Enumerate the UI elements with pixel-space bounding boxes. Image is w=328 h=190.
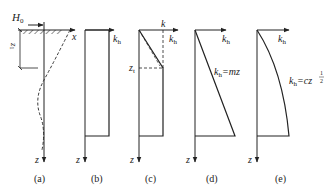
x-axis-label: x (71, 31, 77, 42)
formula-exponent-num: 1 (320, 70, 323, 76)
formula-label: kh=cz (289, 75, 312, 88)
linear-then-constant-profile (139, 30, 163, 136)
k-axis-label: kh (278, 33, 286, 46)
depth-label: zt (128, 62, 135, 75)
load-label: H0 (11, 11, 24, 25)
ground-hatching (20, 30, 62, 34)
formula-label: kh=mz (214, 66, 240, 79)
panel-d: kh z kh=mz (d) (185, 30, 240, 185)
z-axis-label: z (185, 154, 190, 165)
k-axis-label: kh (113, 33, 121, 46)
pile-soil-modulus-diagram: x H0 z z1 (a) kh z (b) k kh z zt (0, 0, 328, 190)
k-axis-label: kh (169, 33, 177, 46)
caption-a: (a) (34, 173, 45, 185)
z-axis-label: z (34, 154, 39, 165)
formula-exponent-den: 2 (320, 78, 323, 84)
z-axis-label: z (75, 154, 80, 165)
z-axis-label: z (129, 154, 134, 165)
caption-d: (d) (206, 173, 218, 185)
caption-b: (b) (91, 173, 103, 185)
deflection-curve (38, 30, 70, 150)
k-top-label: k (161, 18, 166, 29)
z-axis-label: z (247, 154, 252, 165)
caption-c: (c) (145, 173, 156, 185)
depth-label: z1 (9, 42, 19, 50)
panel-a: x H0 z z1 (a) (9, 11, 77, 185)
constant-k-profile (85, 30, 109, 136)
k-axis-label: kh (222, 33, 230, 46)
panel-b: kh z (b) (75, 30, 121, 185)
panel-e: kh z kh=cz 1 2 (e) (247, 30, 324, 185)
panel-c: k kh z zt (c) (128, 18, 178, 185)
caption-e: (e) (275, 173, 286, 185)
